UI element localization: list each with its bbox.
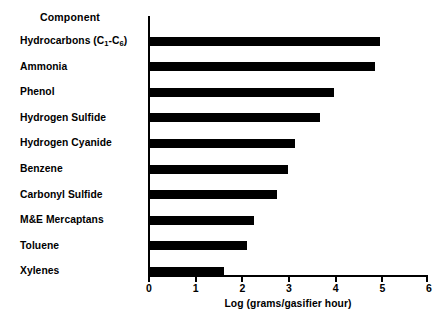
- bar-chart: Component Hydrocarbons (C1-C6)AmmoniaPhe…: [0, 0, 438, 317]
- bar: [150, 165, 288, 174]
- category-label: M&E Mercaptans: [20, 213, 146, 227]
- plot-area: [150, 16, 426, 275]
- bar: [150, 62, 375, 71]
- category-label: Phenol: [20, 85, 146, 99]
- x-axis: Log (grams/gasifier hour) 0123456: [148, 275, 428, 317]
- x-axis-title: Log (grams/gasifier hour): [148, 298, 428, 309]
- x-axis-tick-label: 0: [139, 282, 159, 294]
- category-label-column: Hydrocarbons (C1-C6)AmmoniaPhenolHydroge…: [0, 16, 146, 275]
- bar: [150, 88, 334, 97]
- x-axis-tick-label: 3: [279, 282, 299, 294]
- x-axis-tick-label: 5: [372, 282, 392, 294]
- bar: [150, 241, 247, 250]
- category-label: Benzene: [20, 162, 146, 176]
- category-label: Xylenes: [20, 264, 146, 278]
- category-label: Ammonia: [20, 60, 146, 74]
- bar: [150, 190, 277, 199]
- category-label: Hydrogen Sulfide: [20, 111, 146, 125]
- x-axis-tick-label: 2: [232, 282, 252, 294]
- x-axis-tick-label: 4: [326, 282, 346, 294]
- bar: [150, 37, 380, 46]
- category-label: Hydrocarbons (C1-C6): [20, 34, 146, 48]
- bar: [150, 139, 295, 148]
- category-label: Toluene: [20, 239, 146, 253]
- bar: [150, 113, 320, 122]
- category-label: Carbonyl Sulfide: [20, 188, 146, 202]
- x-axis-tick-label: 6: [419, 282, 438, 294]
- bar: [150, 216, 254, 225]
- x-axis-tick-label: 1: [186, 282, 206, 294]
- category-label: Hydrogen Cyanide: [20, 136, 146, 150]
